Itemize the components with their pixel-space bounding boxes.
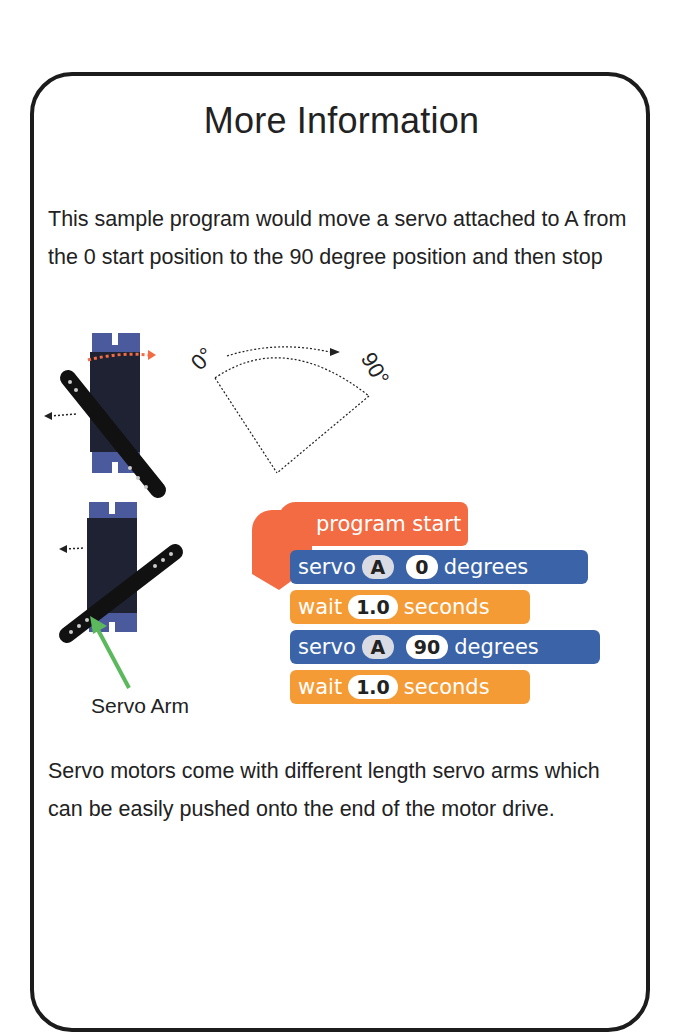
port-dropdown[interactable]: A [362,555,394,579]
servo-arm-pointer-arrow [85,612,145,692]
block-keyword: servo [298,635,356,659]
wait-block[interactable]: wait 1.0 seconds [290,590,530,624]
degree-input[interactable]: 0 [406,555,438,579]
wait-block[interactable]: wait 1.0 seconds [290,670,530,704]
seconds-input[interactable]: 1.0 [348,675,398,699]
block-unit: seconds [404,675,490,699]
servo-block[interactable]: servo A 0 degrees [290,550,588,584]
block-unit: degrees [444,555,529,579]
seconds-input[interactable]: 1.0 [348,595,398,619]
port-dropdown[interactable]: A [362,635,394,659]
intro-paragraph: This sample program would move a servo a… [48,200,638,276]
block-keyword: servo [298,555,356,579]
servo-at-0-image [40,330,180,505]
program-start-block[interactable]: program start [278,502,468,546]
block-keyword: wait [298,595,342,619]
block-unit: degrees [454,635,539,659]
program-start-label: program start [316,512,461,536]
page-title: More Information [0,100,683,142]
block-keyword: wait [298,675,342,699]
degree-input[interactable]: 90 [406,635,448,659]
servo-arm-caption: Servo Arm [91,694,189,718]
block-unit: seconds [404,595,490,619]
outro-paragraph: Servo motors come with different length … [48,752,638,828]
servo-block[interactable]: servo A 90 degrees [290,630,600,664]
